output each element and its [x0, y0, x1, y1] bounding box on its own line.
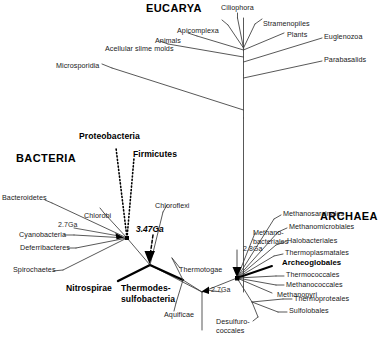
leader-apicomplexa: [222, 20, 228, 25]
taxon-proteobacteria: Proteobacteria: [79, 132, 140, 142]
leader-desulfurococcales: [253, 317, 258, 321]
branch-parabasalids: [244, 61, 323, 78]
leader-methanosarcinales: [274, 215, 281, 219]
domain-heading-bacteria: BACTERIA: [16, 152, 76, 164]
taxon-thermoproteales: Thermoproteales: [294, 295, 349, 303]
branch-nitrospirae: [118, 265, 150, 281]
branch-thermoproteales: [252, 299, 283, 302]
domain-heading-eucarya: EUCARYA: [146, 2, 202, 14]
arrow-age-thermodesulfo-head: [145, 251, 156, 264]
taxon-thermodesulfobacteria-line2: sulfobacteria: [121, 295, 175, 304]
taxon-deferribacteres: Deferribacteres: [20, 244, 70, 252]
phylogenetic-tree-figure: EUCARYA BACTERIA ARCHAEA Ciliophora Apic…: [0, 0, 391, 341]
taxon-nitrospirae: Nitrospirae: [66, 284, 112, 294]
age-marker-thermodesulfobacteria: 3.47Ga: [136, 225, 164, 234]
taxon-halobacteriales: Halobacteriales: [287, 237, 337, 245]
age-marker-archaea-crown: 2.8Ga: [243, 245, 262, 253]
taxon-euglenozoa: Euglenozoa: [324, 33, 362, 41]
taxon-thermococcales: Thermococcales: [286, 271, 339, 279]
taxon-apicomplexa: Apicomplexa: [177, 27, 219, 35]
leader-microsporidia: [102, 64, 112, 68]
branch-proteobacteria: [116, 148, 127, 238]
branch-acellular-slime-molds: [168, 44, 244, 57]
taxon-desulfurococcales-line2: coccales: [216, 327, 244, 335]
taxon-firmicutes: Firmicutes: [133, 150, 177, 160]
taxon-methanomicrobiales: Methanomicrobiales: [289, 223, 354, 231]
taxon-methanococcales: Methanococcales: [286, 281, 343, 289]
branch-thermotoga-aquifica-stem: [183, 280, 202, 292]
leader-thermoplasmatales: [274, 254, 283, 256]
taxon-chloroflexi: Chloroflexi: [155, 202, 190, 210]
taxon-thermodesulfobacteria-line1: Thermodes-: [121, 284, 171, 293]
taxon-methanosarcinales: Methanosarcinales: [283, 210, 344, 218]
taxon-plants: Plants: [287, 31, 307, 39]
branch-euglenozoa: [244, 38, 323, 62]
taxon-spirochaetes: Spirochaetes: [13, 266, 56, 274]
age-marker-bacteria-crown: 2.7Ga: [58, 221, 77, 229]
taxon-thermoplasmatales: Thermoplasmatales: [285, 249, 349, 257]
taxon-acellular-slime-molds: Acellular slime molds: [105, 45, 174, 53]
branch-aquificae: [176, 280, 183, 303]
branch-spirochaetes: [63, 238, 127, 270]
arrow-age-root-head: [202, 287, 210, 295]
branch-methanococcales: [237, 278, 276, 285]
taxon-thermotogae: Thermotogae: [179, 266, 222, 274]
leader-stramenopiles: [255, 19, 262, 24]
taxon-ciliophora: Ciliophora: [221, 4, 254, 12]
branch-sulfolobales: [252, 302, 278, 312]
taxon-stramenopiles: Stramenopiles: [263, 20, 310, 28]
taxon-chlorobi: Chlorobi: [84, 212, 111, 220]
taxon-desulfurococcales-line1: Desulfuro-: [216, 318, 250, 326]
taxon-methanobacteriales-line1: Methano-: [253, 229, 284, 237]
taxon-bacteroidetes: Bacteroidetes: [2, 194, 47, 202]
taxon-microsporidia: Microsporidia: [56, 62, 99, 70]
branch-methanopyri: [237, 278, 272, 293]
taxon-sulfolobales: Sulfolobales: [289, 307, 329, 315]
age-marker-root: 2.7Ga: [211, 286, 230, 294]
taxon-aquificae: Aquificae: [164, 311, 194, 319]
taxon-archeoglobales: Archeoglobales: [282, 259, 341, 268]
branch-firmicutes: [127, 158, 134, 238]
branch-stramenopiles: [244, 24, 256, 48]
taxon-parabasalids: Parabasalids: [324, 56, 366, 64]
arrow-age-bacteria-line: [74, 228, 119, 236]
taxon-cyanobacteria: Cyanobacteria: [19, 231, 66, 239]
tree-branches: [0, 0, 391, 341]
branch-deferribacteres: [76, 238, 127, 248]
branch-microsporidia: [112, 68, 244, 110]
